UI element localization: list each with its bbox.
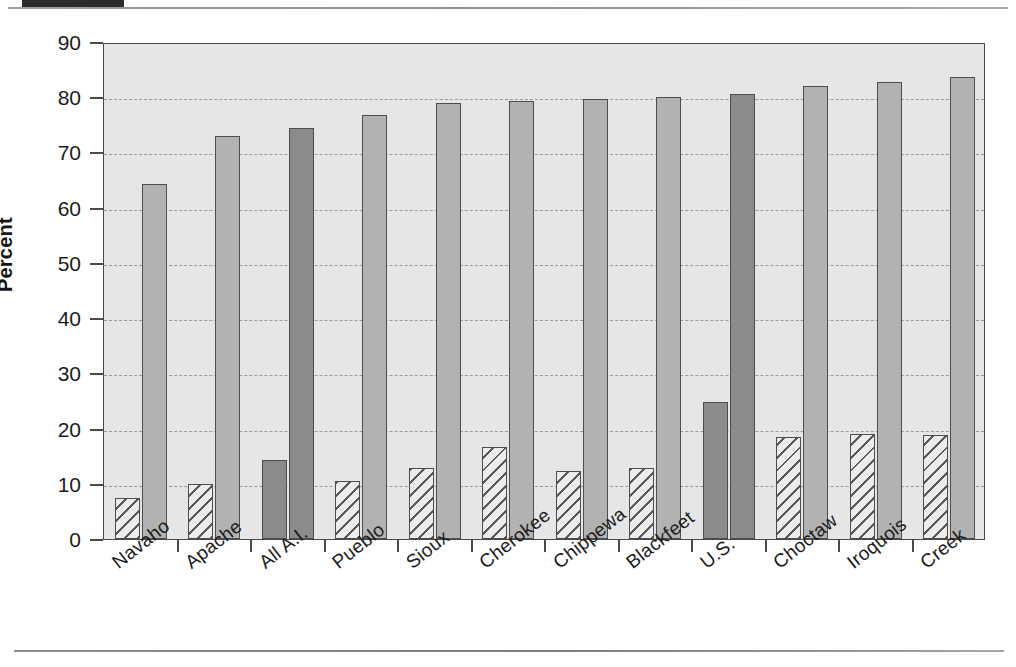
bar-series1 bbox=[629, 468, 654, 539]
bar-series1 bbox=[850, 434, 875, 539]
x-axis-tick-mark bbox=[838, 540, 840, 552]
bar-series2 bbox=[583, 99, 608, 539]
y-axis-tick-mark bbox=[90, 263, 103, 265]
bar-series1 bbox=[188, 484, 213, 539]
y-axis-tick-label: 50 bbox=[58, 252, 81, 276]
x-axis-tick-mark bbox=[544, 540, 546, 552]
bottom-horizontal-rule bbox=[14, 650, 1004, 652]
bar-series1 bbox=[923, 435, 948, 539]
x-axis-tick-mark bbox=[177, 540, 179, 552]
bar-series1 bbox=[335, 481, 360, 539]
bar-series2 bbox=[362, 115, 387, 539]
y-axis: 0102030405060708090 bbox=[0, 0, 103, 667]
y-axis-tick-label: 70 bbox=[58, 141, 81, 165]
gridline bbox=[104, 99, 984, 100]
y-axis-tick-mark bbox=[90, 318, 103, 320]
x-axis-tick-mark bbox=[618, 540, 620, 552]
x-axis-tick-mark bbox=[324, 540, 326, 552]
bar-series2 bbox=[877, 82, 902, 539]
x-axis-tick-mark bbox=[691, 540, 693, 552]
bar-series2 bbox=[142, 184, 167, 539]
y-axis-tick-label: 30 bbox=[58, 362, 81, 386]
x-axis-tick-mark bbox=[765, 540, 767, 552]
y-axis-tick-mark bbox=[90, 152, 103, 154]
bar-series2 bbox=[436, 103, 461, 539]
y-axis-tick-label: 0 bbox=[69, 528, 81, 552]
plot-area bbox=[103, 43, 985, 540]
bar-series2 bbox=[730, 94, 755, 539]
bar-series1 bbox=[409, 468, 434, 539]
bar-series2 bbox=[289, 128, 314, 539]
y-axis-tick-mark bbox=[90, 42, 103, 44]
y-axis-tick-label: 80 bbox=[58, 86, 81, 110]
y-axis-tick-mark bbox=[90, 373, 103, 375]
y-axis-tick-label: 90 bbox=[58, 31, 81, 55]
bar-series2 bbox=[509, 101, 534, 539]
bar-series1 bbox=[482, 447, 507, 539]
y-axis-tick-label: 60 bbox=[58, 197, 81, 221]
bar-series1 bbox=[556, 471, 581, 539]
y-axis-tick-label: 20 bbox=[58, 418, 81, 442]
bar-series2 bbox=[656, 97, 681, 539]
x-axis-tick-mark bbox=[471, 540, 473, 552]
y-axis-tick-mark bbox=[90, 97, 103, 99]
x-axis-tick-mark bbox=[250, 540, 252, 552]
bar-series2 bbox=[950, 77, 975, 539]
x-axis-tick-mark bbox=[397, 540, 399, 552]
y-axis-tick-label: 10 bbox=[58, 473, 81, 497]
y-axis-tick-mark bbox=[90, 539, 103, 541]
bar-series1 bbox=[262, 460, 287, 539]
y-axis-tick-mark bbox=[90, 484, 103, 486]
y-axis-tick-label: 40 bbox=[58, 307, 81, 331]
bar-series1 bbox=[776, 437, 801, 539]
bar-chart: Percent 0102030405060708090 NavahoApache… bbox=[0, 0, 1016, 667]
y-axis-tick-mark bbox=[90, 208, 103, 210]
x-axis-tick-mark bbox=[912, 540, 914, 552]
bar-series2 bbox=[215, 136, 240, 539]
bar-series1 bbox=[703, 402, 728, 539]
y-axis-tick-mark bbox=[90, 429, 103, 431]
bar-series2 bbox=[803, 86, 828, 539]
